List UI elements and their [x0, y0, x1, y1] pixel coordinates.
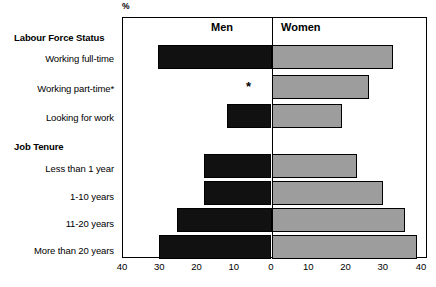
group-label-labour-force-status: Labour Force Status	[14, 33, 104, 43]
bar-men-11-20-years	[177, 208, 272, 232]
category-label-less-than-1-year: Less than 1 year	[45, 164, 114, 174]
x-tick-30-right: 30	[378, 262, 389, 272]
bar-men-working-full-time	[158, 45, 272, 69]
bar-women-less-than-1-year	[272, 154, 358, 178]
annotation-asterisk-men-part-time: *	[246, 80, 251, 93]
bar-men-less-than-1-year	[204, 154, 271, 178]
x-tick-0: 0	[268, 262, 273, 272]
bar-women-1-10-years	[272, 181, 384, 205]
plot-area: Men Women *	[122, 17, 427, 258]
category-label-column: Labour Force Status Working full-time Wo…	[0, 0, 118, 287]
panel-header-men: Men	[211, 21, 233, 33]
category-label-looking-for-work: Looking for work	[46, 113, 114, 123]
bar-women-working-full-time	[272, 45, 393, 69]
panel-header-women: Women	[281, 21, 321, 33]
category-label-11-20-years: 11-20 years	[66, 219, 114, 229]
bar-men-1-10-years	[204, 181, 271, 205]
x-tick-10-right: 10	[303, 262, 314, 272]
x-tick-10-left: 10	[229, 262, 240, 272]
category-label-working-part-time: Working part-time*	[37, 84, 114, 94]
x-tick-30-left: 30	[154, 262, 165, 272]
category-label-working-full-time: Working full-time	[45, 54, 114, 64]
x-tick-40-right: 40	[416, 262, 427, 272]
bar-men-more-than-20-years	[159, 235, 272, 259]
bar-women-looking-for-work	[272, 104, 342, 128]
bar-women-11-20-years	[272, 208, 405, 232]
chart-figure: Labour Force Status Working full-time Wo…	[0, 0, 436, 287]
group-label-job-tenure: Job Tenure	[14, 142, 64, 152]
bar-women-more-than-20-years	[272, 235, 417, 259]
x-tick-20-right: 20	[340, 262, 351, 272]
category-label-more-than-20-years: More than 20 years	[34, 246, 114, 256]
unit-label-percent: %	[122, 2, 130, 11]
x-tick-40-left: 40	[117, 262, 128, 272]
bar-men-looking-for-work	[227, 104, 272, 128]
bar-women-working-part-time	[272, 75, 369, 99]
category-label-1-10-years: 1-10 years	[70, 192, 114, 202]
x-tick-20-left: 20	[191, 262, 202, 272]
